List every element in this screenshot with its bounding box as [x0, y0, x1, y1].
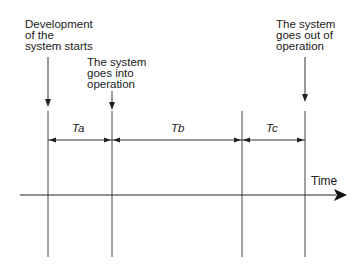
interval-dimension-lines	[48, 138, 305, 143]
event-label-goes-into-operation: The system goes into operation	[87, 57, 146, 90]
label-line: operation	[276, 41, 335, 52]
event-label-goes-out-of-operation: The system goes out of operation	[276, 19, 335, 52]
interval-label-ta: Ta	[72, 122, 84, 134]
label-line: operation	[87, 79, 146, 90]
interval-label-tb: Tb	[171, 122, 184, 134]
interval-label-tc: Tc	[266, 122, 278, 134]
event-label-development-starts: Development of the system starts	[25, 19, 93, 52]
time-axis-label: Time	[311, 176, 337, 187]
time-axis	[20, 189, 347, 201]
event-arrows	[45, 57, 308, 110]
label-line: system starts	[25, 41, 93, 52]
